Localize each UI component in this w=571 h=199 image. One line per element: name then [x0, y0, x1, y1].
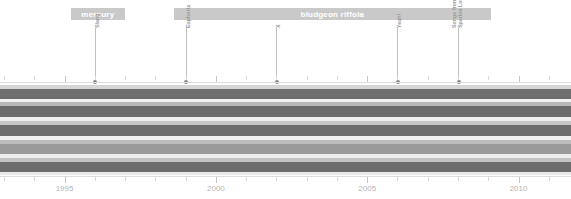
- album-marker-label: Euphoria: [185, 5, 191, 28]
- axis-tick: [4, 177, 5, 181]
- album-marker[interactable]: Euphoria: [186, 28, 187, 82]
- axis-tick: [549, 177, 550, 181]
- axis-tick: [337, 177, 338, 181]
- axis-tick: [246, 76, 247, 80]
- axis-tick: [337, 76, 338, 80]
- axis-tick: [34, 76, 35, 80]
- album-title-line-1: Yeah!: [396, 14, 402, 28]
- axis-tick: [488, 76, 489, 80]
- axis-tick: [125, 177, 126, 181]
- album-marker-label: Slang: [94, 13, 100, 28]
- stripe-body: [0, 85, 571, 175]
- year-label: 1995: [56, 184, 74, 193]
- axis-tick: [34, 177, 35, 181]
- era-band: bludgeon riffola: [174, 8, 492, 20]
- stripe-band: [0, 106, 571, 117]
- album-title-line-2: Sparkle Lounge: [457, 0, 463, 28]
- axis-tick: [216, 177, 217, 183]
- timeline-chart: mercurybludgeon riffola SlangEuphoriaXYe…: [0, 0, 571, 199]
- axis-tick: [95, 177, 96, 181]
- axis-tick: [307, 177, 308, 181]
- axis-tick: [276, 177, 277, 181]
- axis-tick: [4, 76, 5, 80]
- album-marker-label: Songs from theSparkle Lounge: [451, 0, 463, 28]
- axis-tick: [125, 76, 126, 80]
- axis-tick: [367, 177, 368, 183]
- album-title-line-1: Slang: [94, 13, 100, 28]
- stripe-band: [0, 89, 571, 99]
- axis-tick: [276, 76, 277, 80]
- stripe-band: [0, 162, 571, 172]
- year-label: 2000: [207, 184, 225, 193]
- axis-tick: [155, 76, 156, 80]
- stripe-band: [0, 172, 571, 175]
- axis-tick: [216, 76, 217, 82]
- axis-tick: [458, 177, 459, 181]
- album-title-line-1: Euphoria: [185, 5, 191, 28]
- top-axis-line: [0, 82, 571, 83]
- axis-tick: [95, 76, 96, 80]
- axis-tick: [428, 177, 429, 181]
- axis-tick: [186, 76, 187, 80]
- axis-tick: [549, 76, 550, 80]
- axis-tick: [397, 177, 398, 181]
- axis-tick: [367, 76, 368, 82]
- album-marker[interactable]: Yeah!: [397, 28, 398, 82]
- axis-tick: [65, 76, 66, 82]
- year-label: 2010: [510, 184, 528, 193]
- axis-tick: [186, 177, 187, 181]
- album-marker[interactable]: Slang: [95, 28, 96, 82]
- album-marker[interactable]: X: [276, 28, 277, 82]
- album-marker-label: X: [275, 24, 281, 28]
- year-label: 2005: [358, 184, 376, 193]
- axis-tick: [458, 76, 459, 80]
- axis-tick: [428, 76, 429, 80]
- axis-tick: [519, 76, 520, 82]
- axis-tick: [397, 76, 398, 80]
- bottom-axis-line: [0, 176, 571, 177]
- album-title-line-1: X: [275, 24, 281, 28]
- axis-tick: [307, 76, 308, 80]
- axis-tick: [155, 177, 156, 181]
- stripe-band: [0, 125, 571, 136]
- axis-tick: [488, 177, 489, 181]
- axis-tick: [65, 177, 66, 183]
- stripe-band: [0, 144, 571, 154]
- album-marker[interactable]: Songs from theSparkle Lounge: [458, 28, 459, 82]
- axis-tick: [246, 177, 247, 181]
- axis-tick: [519, 177, 520, 183]
- album-marker-label: Yeah!: [396, 14, 402, 28]
